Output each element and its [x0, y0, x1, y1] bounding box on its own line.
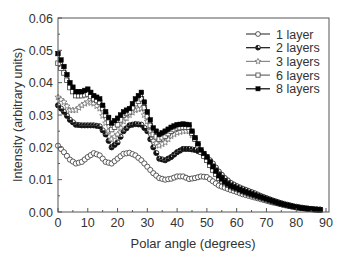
- filled-square-marker: [68, 80, 73, 85]
- filled-square-marker: [187, 122, 192, 127]
- filled-square-marker: [211, 164, 216, 169]
- y-tick-label: 0.02: [29, 141, 53, 155]
- filled-square-marker: [190, 129, 195, 134]
- y-tick-label: 0.04: [29, 76, 53, 90]
- x-tick-label: 80: [289, 216, 303, 230]
- legend-item: 6 layers: [246, 69, 320, 83]
- y-tick-label: 0.00: [29, 206, 53, 220]
- y-tick-label: 0.01: [29, 173, 53, 187]
- x-axis-label: Polar angle (degrees): [130, 236, 255, 251]
- filled-square-marker: [142, 100, 147, 105]
- legend-label: 3 layers: [276, 55, 320, 69]
- filled-square-marker: [65, 72, 70, 77]
- filled-square-marker: [71, 85, 76, 90]
- filled-square-marker: [103, 109, 108, 114]
- filled-square-marker: [196, 141, 201, 146]
- filled-square-marker: [208, 160, 213, 165]
- y-axis: 0.000.010.020.030.040.050.06: [29, 12, 62, 220]
- x-tick-label: 0: [55, 216, 62, 230]
- filled-square-marker: [59, 58, 64, 63]
- filled-square-marker: [205, 155, 210, 160]
- x-tick-label: 30: [140, 216, 154, 230]
- filled-square-marker: [139, 90, 144, 95]
- filled-square-marker: [100, 103, 105, 108]
- legend-item: 8 layers: [246, 82, 320, 96]
- legend-item: 2 layers: [246, 41, 320, 55]
- x-tick-label: 40: [170, 216, 184, 230]
- filled-square-marker: [193, 135, 198, 140]
- y-tick-label: 0.05: [29, 44, 53, 58]
- open-star-marker: [255, 58, 261, 63]
- y-tick-label: 0.06: [29, 12, 53, 26]
- filled-square-marker: [318, 207, 323, 212]
- filled-square-marker: [130, 101, 135, 106]
- open-square-marker: [256, 73, 260, 77]
- legend: 1 layer2 layers3 layers6 layers8 layers: [246, 28, 320, 97]
- x-tick-label: 90: [319, 216, 333, 230]
- x-tick-label: 50: [200, 216, 214, 230]
- x-axis: 0102030405060708090: [55, 208, 333, 230]
- legend-item: 3 layers: [246, 55, 320, 69]
- filled-square-marker: [256, 87, 260, 91]
- open-circle-marker: [256, 32, 261, 37]
- series-2-layers: [55, 103, 322, 213]
- y-axis-label: Intensity (arbitrary units): [11, 48, 25, 182]
- x-tick-label: 70: [259, 216, 273, 230]
- filled-square-marker: [214, 169, 219, 174]
- legend-label: 6 layers: [276, 69, 320, 83]
- y-tick-label: 0.03: [29, 109, 53, 123]
- filled-square-marker: [145, 109, 150, 114]
- filled-square-marker: [62, 64, 67, 69]
- x-tick-label: 20: [111, 216, 125, 230]
- filled-square-marker: [106, 115, 111, 120]
- legend-item: 1 layer: [246, 28, 314, 42]
- legend-label: 2 layers: [276, 41, 320, 55]
- filled-square-marker: [127, 106, 132, 111]
- filled-square-marker: [97, 97, 102, 102]
- intensity-vs-polar-angle-chart: 0102030405060708090 0.000.010.020.030.04…: [0, 0, 350, 254]
- x-tick-label: 60: [230, 216, 244, 230]
- legend-label: 8 layers: [276, 82, 320, 96]
- x-tick-label: 10: [81, 216, 95, 230]
- legend-label: 1 layer: [276, 28, 314, 42]
- filled-square-marker: [148, 118, 153, 123]
- series-line: [58, 105, 320, 209]
